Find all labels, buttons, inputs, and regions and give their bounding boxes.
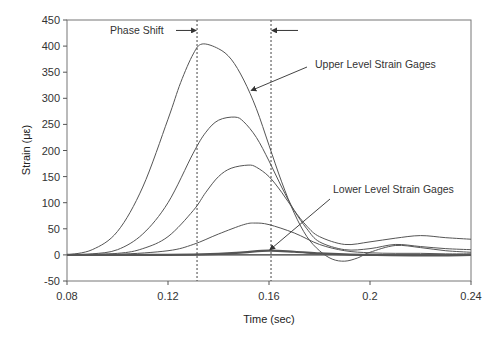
y-tick-label: 50	[48, 223, 60, 235]
series-line	[67, 44, 471, 261]
y-tick-label: 300	[42, 92, 60, 104]
phase-shift-label: Phase Shift	[110, 24, 164, 36]
x-tick-label: 0.08	[56, 290, 77, 302]
y-axis-title: Strain (με)	[20, 125, 32, 175]
y-tick-label: 400	[42, 40, 60, 52]
y-tick-label: 450	[42, 14, 60, 26]
y-axis: -50050100150200250300350400450	[42, 14, 67, 287]
y-tick-label: 200	[42, 145, 60, 157]
data-series	[67, 44, 471, 261]
series-line	[67, 165, 471, 255]
y-tick-label: 250	[42, 118, 60, 130]
strain-time-chart: -50050100150200250300350400450 0.080.120…	[0, 0, 499, 341]
x-tick-label: 0.2	[362, 290, 377, 302]
y-tick-label: 350	[42, 66, 60, 78]
upper-gages-label: Upper Level Strain Gages	[315, 58, 436, 70]
x-tick-label: 0.12	[157, 290, 178, 302]
x-axis-title: Time (sec)	[243, 313, 295, 325]
y-tick-label: 0	[54, 249, 60, 261]
y-tick-label: 150	[42, 171, 60, 183]
lower-gages-label: Lower Level Strain Gages	[333, 183, 454, 195]
upper-gages-arrow	[251, 67, 307, 90]
y-tick-label: -50	[44, 275, 60, 287]
x-tick-label: 0.16	[258, 290, 279, 302]
x-axis: 0.080.120.160.20.24	[56, 281, 481, 302]
annotations: Phase ShiftUpper Level Strain GagesLower…	[110, 20, 454, 281]
x-tick-label: 0.24	[460, 290, 481, 302]
y-tick-label: 100	[42, 197, 60, 209]
